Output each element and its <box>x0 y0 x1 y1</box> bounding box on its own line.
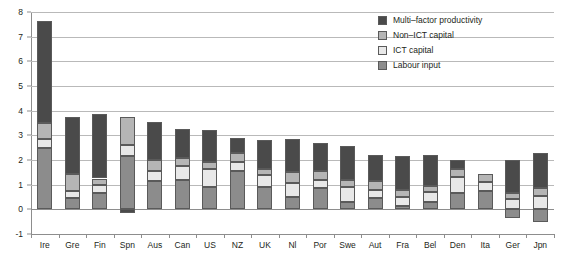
x-tick-label-Can: Can <box>175 240 191 250</box>
bar-NZ <box>230 12 245 234</box>
y-tick-label: 0 <box>18 204 23 214</box>
bar-segment <box>175 158 190 167</box>
bar-segment <box>478 191 493 210</box>
x-tick-label-Nl: Nl <box>288 240 296 250</box>
x-tick-mark <box>306 234 307 238</box>
bar-segment <box>175 180 190 210</box>
y-axis-labels: -1012345678 <box>0 12 27 234</box>
legend-item-label: Non–ICT capital <box>393 31 454 40</box>
bar-segment <box>533 196 548 210</box>
y-tick-label: 5 <box>18 81 23 91</box>
bar-Nl <box>285 12 300 234</box>
bar-segment <box>120 145 135 156</box>
x-axis-labels: IreGreFinSpnAusCanUSNZUKNlPorSweAutFraBe… <box>31 240 554 256</box>
bar-segment <box>533 209 548 221</box>
bar-segment <box>175 166 190 180</box>
x-tick-mark <box>86 234 87 238</box>
y-tick-mark <box>27 135 31 136</box>
bar-segment <box>478 182 493 191</box>
bar-UK <box>257 12 272 234</box>
bar-segment <box>37 123 52 139</box>
x-tick-label-Ger: Ger <box>506 240 520 250</box>
bar-segment <box>340 202 355 209</box>
bar-segment <box>450 160 465 169</box>
bar-Fin <box>92 12 107 234</box>
bar-segment <box>175 129 190 157</box>
bar-segment <box>423 186 438 192</box>
x-tick-mark <box>499 234 500 238</box>
bar-segment <box>120 209 135 213</box>
y-tick-label: -1 <box>15 229 23 239</box>
bar-segment <box>230 153 245 163</box>
y-tick-mark <box>27 209 31 210</box>
bar-segment <box>505 209 520 218</box>
legend-item: ICT capital <box>378 43 554 58</box>
legend-swatch-icon <box>378 46 387 55</box>
legend-item: Multi–factor productivity <box>378 13 554 28</box>
bar-segment <box>202 169 217 188</box>
bar-segment <box>285 197 300 209</box>
bar-segment <box>92 185 107 194</box>
bar-segment <box>340 187 355 202</box>
bar-segment <box>450 177 465 193</box>
bar-segment <box>92 193 107 209</box>
y-tick-label: 7 <box>18 32 23 42</box>
x-tick-label-Bel: Bel <box>424 240 436 250</box>
bar-segment <box>257 140 272 168</box>
x-tick-label-Fra: Fra <box>396 240 409 250</box>
y-tick-label: 2 <box>18 155 23 165</box>
bar-segment <box>450 169 465 178</box>
bar-segment <box>313 180 328 189</box>
bar-segment <box>313 143 328 171</box>
bar-segment <box>285 183 300 197</box>
y-tick-label: 3 <box>18 130 23 140</box>
x-tick-label-Por: Por <box>313 240 326 250</box>
bar-segment <box>368 198 383 209</box>
bar-segment <box>230 162 245 171</box>
bar-segment <box>230 138 245 153</box>
chart-container: -1012345678 IreGreFinSpnAusCanUSNZUKNlPo… <box>0 0 562 263</box>
x-tick-mark <box>416 234 417 238</box>
bar-segment <box>65 174 80 191</box>
bar-segment <box>65 191 80 198</box>
x-tick-label-Gre: Gre <box>65 240 79 250</box>
x-tick-label-NZ: NZ <box>232 240 243 250</box>
legend-swatch-icon <box>378 31 387 40</box>
y-tick-mark <box>27 184 31 185</box>
bar-Spn <box>120 12 135 234</box>
x-tick-label-Ire: Ire <box>40 240 50 250</box>
x-tick-label-Aus: Aus <box>148 240 163 250</box>
bar-segment <box>395 206 410 210</box>
x-tick-label-Spn: Spn <box>120 240 135 250</box>
x-axis-ticks <box>31 234 554 238</box>
x-tick-label-Jpn: Jpn <box>533 240 547 250</box>
bar-segment <box>395 190 410 197</box>
bar-US <box>202 12 217 234</box>
y-tick-mark <box>27 234 31 235</box>
legend-swatch-icon <box>378 16 387 25</box>
bar-segment <box>505 193 520 199</box>
y-tick-mark <box>27 61 31 62</box>
x-tick-label-Ita: Ita <box>480 240 489 250</box>
bar-segment <box>202 130 217 162</box>
bar-segment <box>92 114 107 178</box>
legend-swatch-icon <box>378 61 387 70</box>
legend-item-label: Labour input <box>393 61 440 70</box>
x-tick-mark <box>114 234 115 238</box>
y-tick-label: 8 <box>18 7 23 17</box>
bar-segment <box>65 198 80 209</box>
x-tick-label-UK: UK <box>259 240 271 250</box>
y-tick-label: 6 <box>18 56 23 66</box>
bar-segment <box>395 156 410 189</box>
legend-item-label: Multi–factor productivity <box>393 16 482 25</box>
x-tick-mark <box>251 234 252 238</box>
x-tick-mark <box>526 234 527 238</box>
x-tick-label-US: US <box>204 240 216 250</box>
bar-segment <box>37 139 52 148</box>
y-tick-mark <box>27 12 31 13</box>
x-tick-mark <box>59 234 60 238</box>
y-tick-mark <box>27 86 31 87</box>
x-tick-label-Swe: Swe <box>339 240 356 250</box>
bar-segment <box>257 169 272 175</box>
bar-Ire <box>37 12 52 234</box>
